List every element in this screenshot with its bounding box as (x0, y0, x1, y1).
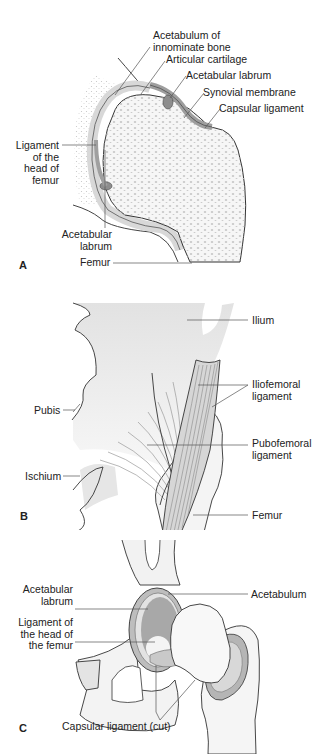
panel-a-hip-coronal-section: Acetabulum of innominate bone Articular … (0, 0, 321, 270)
label-acetabular-labrum-c: Acetabular labrum (18, 584, 73, 607)
label-acetabulum-of-innominate-bone: Acetabulum of innominate bone (153, 30, 231, 53)
label-ligament-of-head-of-femur: Ligament of the head of femur (14, 140, 59, 186)
label-synovial-membrane: Synovial membrane (203, 87, 296, 99)
label-femur-a: Femur (80, 257, 110, 269)
label-femur-b: Femur (252, 510, 282, 522)
panel-letter-c: C (19, 722, 27, 734)
label-ilium: Ilium (252, 315, 274, 327)
panel-b-hip-ligaments-anterior: Ilium Iliofemoral ligament Pubis Pubofem… (0, 270, 321, 530)
label-pubofemoral-ligament: Pubofemoral ligament (252, 438, 312, 461)
label-ischium: Ischium (25, 471, 61, 483)
panel-c-opened-hip-joint: Acetabular labrum Acetabulum Ligament of… (0, 530, 321, 754)
label-iliofemoral-ligament: Iliofemoral ligament (252, 379, 300, 402)
label-articular-cartilage: Articular cartilage (166, 54, 247, 66)
label-capsular-ligament: Capsular ligament (219, 103, 304, 115)
label-ligament-of-head-of-femur-c: Ligament of the head of the femur (14, 617, 73, 652)
label-acetabulum: Acetabulum (251, 589, 306, 601)
label-acetabular-labrum-top: Acetabular labrum (186, 70, 271, 82)
label-acetabular-labrum-bottom: Acetabular labrum (60, 229, 112, 252)
label-capsular-ligament-cut: Capsular ligament (cut) (62, 721, 171, 733)
label-pubis: Pubis (34, 405, 60, 417)
panel-letter-b: B (20, 510, 28, 522)
